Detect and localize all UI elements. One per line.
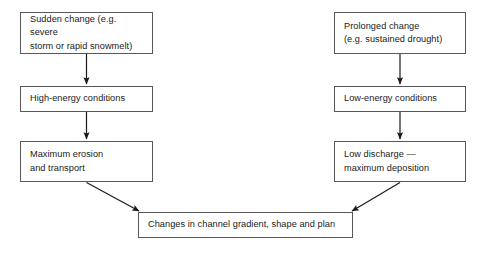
connector-discharge-to-changes — [352, 183, 400, 212]
node-high-energy: High-energy conditions — [20, 86, 153, 112]
node-sudden-change: Sudden change (e.g. severe storm or rapi… — [20, 12, 153, 54]
connector-erosion-to-changes — [87, 183, 140, 212]
node-changes-channel: Changes in channel gradient, shape and p… — [138, 212, 353, 238]
node-low-discharge: Low discharge — maximum deposition — [334, 141, 466, 182]
flowchart-diagram: Sudden change (e.g. severe storm or rapi… — [0, 0, 484, 256]
node-max-erosion: Maximum erosion and transport — [20, 141, 153, 182]
node-prolonged-change: Prolonged change (e.g. sustained drought… — [334, 12, 466, 54]
node-low-energy: Low-energy conditions — [334, 86, 466, 112]
